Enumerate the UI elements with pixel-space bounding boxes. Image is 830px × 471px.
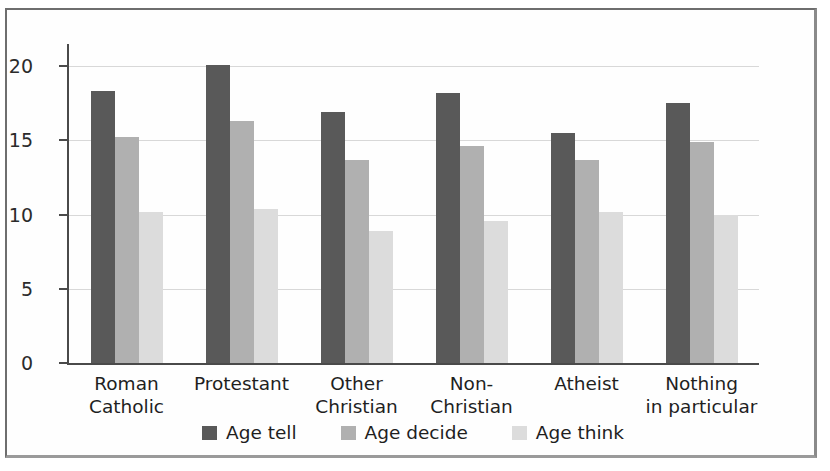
bar [230, 121, 254, 363]
y-tick-label: 0 [0, 354, 33, 373]
bar [599, 212, 623, 363]
bar-group [436, 44, 508, 363]
legend-item: Age tell [202, 424, 297, 443]
bar-group [91, 44, 163, 363]
legend-item: Age decide [341, 424, 468, 443]
bar [484, 221, 508, 363]
y-tick-mark [59, 214, 69, 216]
bar [115, 137, 139, 363]
bar [206, 65, 230, 363]
bar [321, 112, 345, 363]
bar-group [551, 44, 623, 363]
bar [254, 209, 278, 363]
bar-group [666, 44, 738, 363]
bars-layer [69, 44, 759, 363]
bar [345, 160, 369, 363]
bar [139, 212, 163, 363]
y-tick-mark [59, 362, 69, 364]
bar [460, 146, 484, 363]
legend-swatch-icon [202, 426, 217, 440]
legend-item: Age think [512, 424, 624, 443]
legend-label: Age tell [226, 424, 297, 443]
legend-swatch-icon [512, 426, 527, 440]
bar [369, 231, 393, 363]
bar [666, 103, 690, 363]
bar [714, 215, 738, 363]
bar [91, 91, 115, 363]
bar [575, 160, 599, 363]
y-tick-label: 5 [0, 279, 33, 298]
x-axis-category-label: Nothing in particular [624, 373, 779, 418]
bar-group [206, 44, 278, 363]
y-tick-mark [59, 139, 69, 141]
legend-label: Age decide [365, 424, 468, 443]
chart-legend: Age tellAge decideAge think [7, 424, 819, 443]
y-tick-label: 15 [0, 131, 33, 150]
bar [690, 142, 714, 363]
chart-frame: 05101520 Roman CatholicProtestantOther C… [5, 8, 817, 458]
legend-swatch-icon [341, 426, 356, 440]
y-tick-mark [59, 65, 69, 67]
legend-label: Age think [536, 424, 624, 443]
bar [436, 93, 460, 363]
y-tick-label: 10 [0, 205, 33, 224]
x-axis-line [67, 363, 759, 365]
y-tick-mark [59, 288, 69, 290]
bar-group [321, 44, 393, 363]
y-tick-label: 20 [0, 57, 33, 76]
bar-chart: 05101520 Roman CatholicProtestantOther C… [7, 10, 819, 460]
bar [551, 133, 575, 363]
